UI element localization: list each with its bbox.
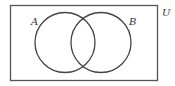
venn-diagram: A B U [0,0,175,86]
universe-label: U [162,7,171,18]
set-a-circle [35,13,95,73]
set-a-label: A [30,16,38,27]
set-b-label: B [128,16,136,27]
set-b-circle [71,13,131,73]
